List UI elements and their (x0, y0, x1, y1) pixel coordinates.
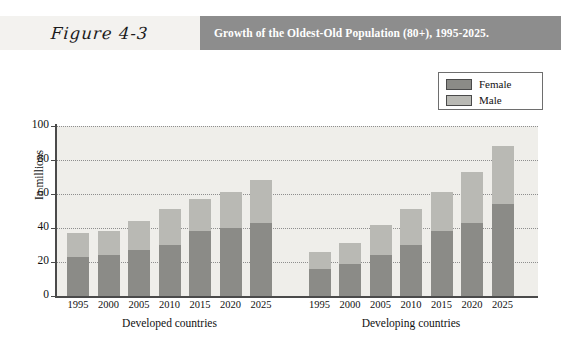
gridline-100 (57, 126, 538, 128)
plot-region (57, 126, 538, 296)
bar-segment-male (67, 233, 89, 257)
bar-segment-male (370, 225, 392, 256)
bar-developing-2015 (431, 192, 453, 296)
bar-developed-2000 (98, 231, 120, 296)
y-tick-mark-20 (51, 262, 56, 263)
bar-segment-male (220, 192, 242, 228)
y-tick-mark-80 (51, 160, 56, 161)
bar-segment-female (67, 257, 89, 296)
y-tick-label-60: 60 (19, 186, 49, 198)
bar-segment-female (128, 250, 150, 296)
bar-segment-female (370, 255, 392, 296)
bar-segment-female (220, 228, 242, 296)
x-tick-label-developing-2025: 2025 (483, 299, 523, 310)
bar-segment-female (492, 204, 514, 296)
chart-area: In millions 0204060801001995200020052010… (0, 0, 561, 353)
bar-segment-female (309, 269, 331, 296)
bar-segment-male (431, 192, 453, 231)
bar-segment-male (492, 146, 514, 204)
y-tick-label-80: 80 (19, 152, 49, 164)
bar-segment-male (461, 172, 483, 223)
group-label-developed: Developed countries (90, 317, 250, 329)
bar-segment-male (339, 243, 361, 263)
bar-segment-female (250, 223, 272, 296)
bar-segment-male (98, 231, 120, 255)
y-tick-mark-0 (51, 296, 56, 297)
bar-developing-1995 (309, 252, 331, 296)
bar-developed-2015 (189, 199, 211, 296)
y-tick-label-20: 20 (19, 254, 49, 266)
x-tick-label-developed-2025: 2025 (241, 299, 281, 310)
bar-segment-female (98, 255, 120, 296)
bar-developing-2005 (370, 225, 392, 296)
group-label-developing: Developing countries (331, 317, 491, 329)
bar-developing-2025 (492, 146, 514, 296)
y-axis-line (55, 124, 57, 298)
bar-segment-male (250, 180, 272, 223)
y-tick-mark-100 (51, 126, 56, 127)
bar-developing-2010 (400, 209, 422, 296)
bar-segment-female (159, 245, 181, 296)
y-tick-label-0: 0 (19, 288, 49, 300)
y-tick-label-40: 40 (19, 220, 49, 232)
y-tick-label-100: 100 (19, 118, 49, 130)
bar-segment-male (128, 221, 150, 250)
gridline-80 (57, 160, 538, 162)
bar-segment-male (400, 209, 422, 245)
bar-developed-2020 (220, 192, 242, 296)
bar-developed-2010 (159, 209, 181, 296)
bar-developed-2025 (250, 180, 272, 296)
bar-segment-female (461, 223, 483, 296)
bar-segment-female (400, 245, 422, 296)
x-axis-line (55, 296, 538, 298)
bar-segment-female (431, 231, 453, 296)
bar-segment-female (339, 264, 361, 296)
bar-segment-male (189, 199, 211, 231)
bar-developing-2020 (461, 172, 483, 296)
bar-segment-female (189, 231, 211, 296)
bar-developed-1995 (67, 233, 89, 296)
y-tick-mark-40 (51, 228, 56, 229)
y-tick-mark-60 (51, 194, 56, 195)
bar-developing-2000 (339, 243, 361, 296)
bar-segment-male (159, 209, 181, 245)
bar-segment-male (309, 252, 331, 269)
bar-developed-2005 (128, 221, 150, 296)
